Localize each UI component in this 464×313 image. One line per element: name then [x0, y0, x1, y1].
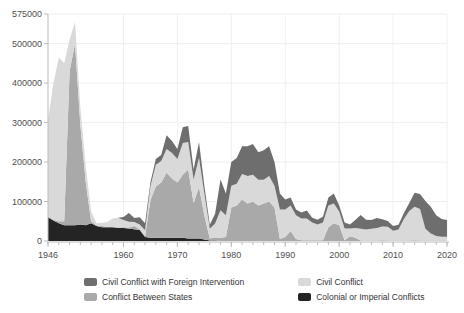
- legend-label-civil-fi: Civil Conflict with Foreign Intervention: [102, 277, 244, 287]
- y-tick-label: 500000: [12, 39, 42, 49]
- x-tick-label: 1946: [38, 250, 58, 260]
- legend-swatch-civil: [298, 278, 311, 286]
- x-tick-label: 2000: [329, 250, 349, 260]
- y-tick-label: 575000: [12, 9, 42, 19]
- legend-item-conflict-between-states: Conflict Between States: [84, 290, 244, 304]
- x-tick-label: 1980: [221, 250, 241, 260]
- legend-item-civil-conflict: Civil Conflict: [298, 275, 424, 289]
- stacked-area-plot: 0100000200000300000400000500000575000194…: [0, 0, 464, 268]
- y-tick-label: 0: [37, 236, 42, 246]
- x-tick-label: 2020: [437, 250, 457, 260]
- legend-item-colonial-imperial-conflicts: Colonial or Imperial Conflicts: [298, 290, 424, 304]
- y-tick-label: 100000: [12, 197, 42, 207]
- legend-swatch-civil-fi: [84, 278, 97, 286]
- legend-item-civil-conflict-foreign-intervention: Civil Conflict with Foreign Intervention: [84, 275, 244, 289]
- y-tick-label: 300000: [12, 118, 42, 128]
- x-tick-label: 1960: [113, 250, 133, 260]
- legend-label-interstate: Conflict Between States: [102, 292, 192, 302]
- legend-label-colonial: Colonial or Imperial Conflicts: [316, 292, 424, 302]
- legend-label-civil: Civil Conflict: [316, 277, 363, 287]
- conflict-deaths-chart: 0100000200000300000400000500000575000194…: [0, 0, 464, 268]
- y-tick-label: 200000: [12, 157, 42, 167]
- legend-swatch-interstate: [84, 293, 97, 301]
- x-tick-label: 2010: [383, 250, 403, 260]
- area-interstate: [48, 44, 447, 241]
- chart-legend: Civil Conflict with Foreign Intervention…: [84, 275, 424, 304]
- x-tick-label: 1970: [167, 250, 187, 260]
- legend-swatch-colonial: [298, 293, 311, 301]
- y-tick-label: 400000: [12, 78, 42, 88]
- x-tick-label: 1990: [275, 250, 295, 260]
